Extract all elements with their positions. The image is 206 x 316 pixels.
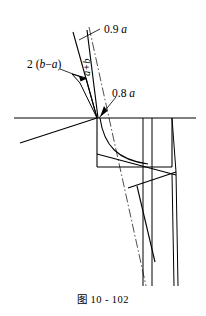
dimension-arrowhead-0-8a <box>100 106 108 117</box>
technical-figure: 0.9 a 0.8 a 2 (b−a) a+b 图 10 - 102 <box>0 0 206 316</box>
figure-caption: 图 10 - 102 <box>0 291 206 306</box>
left-flank-line <box>20 118 97 143</box>
outer-edge-right <box>176 172 178 286</box>
dimension-text-2ba: 2 (b−a) <box>27 58 61 70</box>
outer-edge-upper <box>172 118 176 172</box>
dimension-text-apb: a+b <box>81 58 92 76</box>
dimension-label-0-8a: 0.8 a <box>112 88 135 100</box>
dimension-unit-0-8a: a <box>129 87 135 99</box>
dimension-unit-0-9a: a <box>121 23 127 35</box>
interior-zig-line-upper <box>97 154 176 175</box>
centerline-dash-dot <box>89 27 146 286</box>
dimension-value-0-9a: 0.9 <box>104 23 118 35</box>
dimension-label-2b-minus-a: 2 (b−a) <box>27 59 61 71</box>
dimension-label-0-9a: 0.9 a <box>104 24 127 36</box>
outer-edge-left <box>172 174 174 286</box>
dimension-label-a-plus-b: a+b <box>82 58 93 76</box>
dimension-value-0-8a: 0.8 <box>112 87 126 99</box>
engineering-line-drawing <box>0 0 206 316</box>
